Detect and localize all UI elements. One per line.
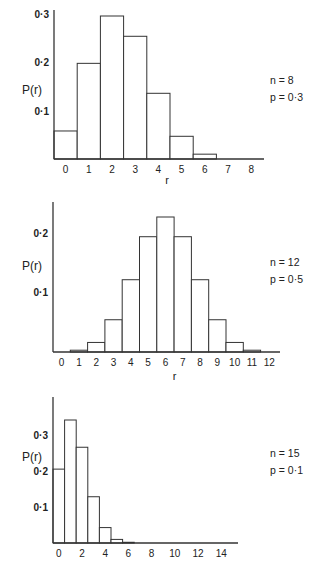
x-tick-label: 0 [59, 357, 65, 368]
x-tick-label: 4 [128, 357, 134, 368]
y-tick-label: 0·1 [34, 502, 49, 513]
y-axis-label: P(r) [22, 259, 42, 273]
y-axis-label: P(r) [22, 450, 42, 464]
bar-r4 [122, 280, 139, 352]
y-tick-label: 0·1 [35, 106, 50, 117]
x-tick-label: 10 [229, 357, 241, 368]
bar-r2 [100, 16, 123, 159]
x-tick-label: 5 [145, 357, 151, 368]
x-tick-label: 8 [197, 357, 203, 368]
x-tick-label: 4 [102, 548, 108, 559]
parameter-annotation: p = 0·1 [270, 464, 303, 476]
bar-r3 [88, 497, 100, 543]
bar-r3 [105, 320, 122, 352]
parameter-annotation: n = 15 [270, 447, 300, 459]
bar-r5 [140, 237, 157, 352]
parameter-annotation: p = 0·5 [270, 273, 303, 285]
x-axis-label: r [165, 174, 169, 186]
bar-r2 [88, 342, 105, 352]
chart-svg: 0·10·20·302468101214P(r)n = 15p = 0·1 [0, 395, 313, 575]
bar-r1 [77, 63, 100, 159]
chart-svg: 0·10·20123456789101112rP(r)n = 12p = 0·5 [0, 200, 313, 395]
y-tick-label: 0·3 [34, 430, 49, 441]
parameter-annotation: p = 0·3 [270, 91, 303, 103]
bar-r6 [157, 217, 174, 352]
x-tick-label: 2 [79, 548, 85, 559]
x-axis-label: r [173, 370, 177, 382]
y-tick-label: 0·2 [35, 57, 50, 68]
x-tick-label: 1 [76, 357, 82, 368]
y-tick-label: 0·2 [34, 228, 49, 239]
bar-r1 [65, 420, 77, 543]
chart-n15-p01: 0·10·20·302468101214P(r)n = 15p = 0·1 [0, 395, 313, 575]
x-tick-label: 6 [163, 357, 169, 368]
bar-r0 [53, 469, 65, 543]
parameter-annotation: n = 12 [270, 256, 300, 268]
x-tick-label: 3 [132, 164, 138, 175]
x-tick-label: 2 [109, 164, 115, 175]
bar-r4 [147, 93, 170, 159]
chart-n8-p03: 0·10·20·3012345678rP(r)n = 8p = 0·3 [0, 0, 313, 200]
y-tick-label: 0·3 [35, 9, 50, 20]
x-tick-label: 0 [63, 164, 69, 175]
y-tick-label: 0·2 [34, 466, 49, 477]
x-tick-label: 4 [156, 164, 162, 175]
x-tick-label: 6 [202, 164, 208, 175]
x-tick-label: 8 [248, 164, 254, 175]
x-tick-label: 12 [264, 357, 276, 368]
bar-r4 [99, 528, 111, 543]
y-axis-label: P(r) [22, 83, 42, 97]
bar-r10 [226, 342, 243, 352]
x-tick-label: 5 [179, 164, 185, 175]
x-tick-label: 14 [216, 548, 228, 559]
x-tick-label: 0 [56, 548, 62, 559]
bar-r0 [54, 131, 77, 159]
x-tick-label: 10 [169, 548, 181, 559]
x-tick-label: 3 [111, 357, 117, 368]
x-tick-label: 12 [192, 548, 204, 559]
bar-r3 [124, 36, 147, 159]
x-tick-label: 2 [93, 357, 99, 368]
parameter-annotation: n = 8 [270, 74, 294, 86]
y-tick-label: 0·1 [34, 287, 49, 298]
x-tick-label: 7 [225, 164, 231, 175]
x-tick-label: 1 [86, 164, 92, 175]
bar-r5 [170, 136, 193, 159]
chart-svg: 0·10·20·3012345678rP(r)n = 8p = 0·3 [0, 0, 313, 200]
bar-r6 [193, 154, 216, 159]
x-tick-label: 7 [180, 357, 186, 368]
x-tick-label: 9 [215, 357, 221, 368]
x-tick-label: 8 [149, 548, 155, 559]
x-tick-label: 6 [126, 548, 132, 559]
bar-r9 [209, 320, 226, 352]
x-tick-label: 11 [247, 357, 258, 368]
bar-r7 [174, 237, 191, 352]
bar-r8 [191, 280, 208, 352]
chart-n12-p05: 0·10·20123456789101112rP(r)n = 12p = 0·5 [0, 200, 313, 395]
bar-r2 [76, 447, 88, 543]
